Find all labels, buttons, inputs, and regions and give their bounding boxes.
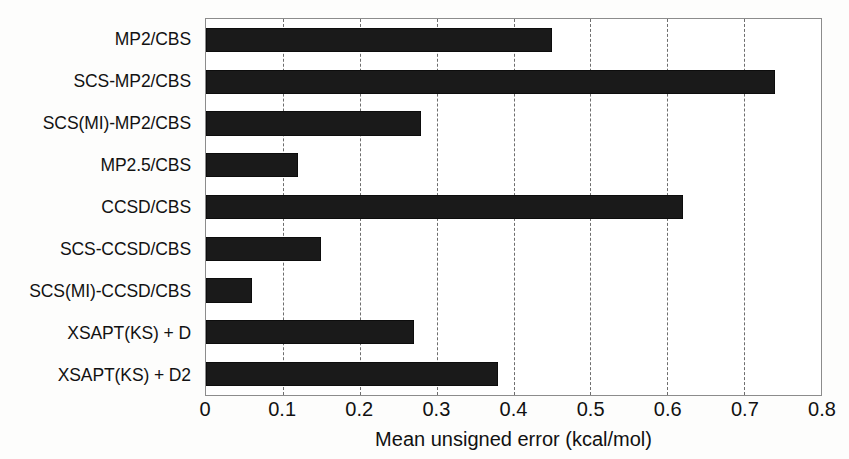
bar-row	[206, 144, 821, 186]
bar-row	[206, 353, 821, 395]
category-label: XSAPT(KS) + D2	[0, 354, 198, 396]
bar-row	[206, 270, 821, 312]
x-tick-label: 0.5	[577, 398, 605, 421]
bar[interactable]	[206, 70, 775, 94]
bar-chart: MP2/CBS SCS-MP2/CBS SCS(MI)-MP2/CBS MP2.…	[0, 0, 849, 459]
plot-area	[205, 18, 822, 396]
category-label: XSAPT(KS) + D	[0, 312, 198, 354]
bar-row	[206, 228, 821, 270]
category-label: SCS(MI)-MP2/CBS	[0, 102, 198, 144]
category-label: SCS-MP2/CBS	[0, 60, 198, 102]
x-tick-label: 0.3	[422, 398, 450, 421]
bar-row	[206, 19, 821, 61]
bar-row	[206, 311, 821, 353]
x-tick-label: 0.1	[268, 398, 296, 421]
bar[interactable]	[206, 111, 421, 135]
category-label: SCS(MI)-CCSD/CBS	[0, 270, 198, 312]
category-label: CCSD/CBS	[0, 186, 198, 228]
bar[interactable]	[206, 320, 414, 344]
bar[interactable]	[206, 195, 683, 219]
category-axis: MP2/CBS SCS-MP2/CBS SCS(MI)-MP2/CBS MP2.…	[0, 18, 198, 396]
category-label: MP2/CBS	[0, 18, 198, 60]
bar-row	[206, 186, 821, 228]
bar-row	[206, 61, 821, 103]
x-tick-label: 0.8	[808, 398, 836, 421]
bar-row	[206, 103, 821, 145]
bars-layer	[206, 19, 821, 395]
x-tick-label: 0	[199, 398, 210, 421]
bar[interactable]	[206, 278, 252, 302]
x-axis-title: Mean unsigned error (kcal/mol)	[205, 428, 822, 451]
x-tick-label: 0.2	[345, 398, 373, 421]
bar[interactable]	[206, 237, 321, 261]
bar[interactable]	[206, 362, 498, 386]
category-label: MP2.5/CBS	[0, 144, 198, 186]
bar[interactable]	[206, 153, 298, 177]
x-axis: 00.10.20.30.40.50.60.70.8	[205, 398, 822, 432]
category-label: SCS-CCSD/CBS	[0, 228, 198, 270]
x-tick-label: 0.6	[654, 398, 682, 421]
x-tick-label: 0.7	[731, 398, 759, 421]
bar[interactable]	[206, 28, 552, 52]
x-tick-label: 0.4	[500, 398, 528, 421]
